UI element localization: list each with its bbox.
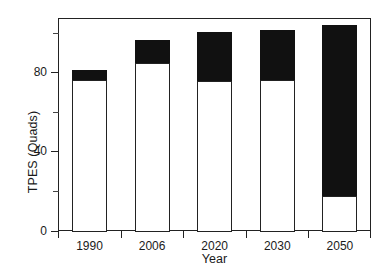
bar-2006-lower xyxy=(135,63,170,232)
y-tick-label-80: 80 xyxy=(13,66,47,78)
x-tick-5 xyxy=(370,231,371,238)
y-tick-minor-60 xyxy=(53,112,59,113)
bar-2050-upper xyxy=(322,25,357,197)
bar-2006-upper xyxy=(135,40,170,64)
bar-chart: TPES (Quads) 80 40 0 1990 2006 2020 2030… xyxy=(0,0,379,280)
y-tick-40 xyxy=(51,151,59,152)
x-tick-2 xyxy=(183,231,184,238)
y-tick-minor-100 xyxy=(53,33,59,34)
bar-2050-lower xyxy=(322,196,357,232)
y-tick-label-0: 0 xyxy=(13,225,47,237)
bar-2030-upper xyxy=(260,30,295,81)
x-tick-0 xyxy=(58,231,59,238)
bar-2020-lower xyxy=(197,81,232,232)
y-tick-80 xyxy=(51,72,59,73)
x-tick-1 xyxy=(121,231,122,238)
bar-2020-upper xyxy=(197,32,232,82)
bar-2030-lower xyxy=(260,80,295,232)
y-tick-label-40: 40 xyxy=(13,145,47,157)
x-axis-title: Year xyxy=(58,252,371,266)
y-axis-title: TPES (Quads) xyxy=(22,0,44,280)
y-axis-title-text: TPES (Quads) xyxy=(22,0,44,280)
y-tick-minor-20 xyxy=(53,191,59,192)
bar-1990-upper xyxy=(72,70,107,80)
x-tick-3 xyxy=(246,231,247,238)
bar-1990-lower xyxy=(72,80,107,232)
x-tick-4 xyxy=(308,231,309,238)
